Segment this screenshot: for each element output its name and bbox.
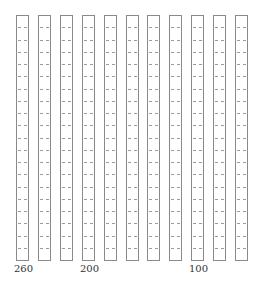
segment-divider: [149, 223, 158, 224]
segment-divider: [128, 113, 137, 114]
segment-divider: [215, 113, 224, 114]
segment-divider: [149, 64, 158, 65]
segment-divider: [18, 101, 27, 102]
segment-divider: [237, 138, 246, 139]
segment-divider: [215, 101, 224, 102]
segment-divider: [215, 150, 224, 151]
segment-divider: [215, 64, 224, 65]
segment-divider: [106, 101, 115, 102]
segment-divider: [18, 113, 27, 114]
segment-divider: [215, 211, 224, 212]
segment-divider: [171, 211, 180, 212]
segment-divider: [215, 187, 224, 188]
segment-divider: [171, 138, 180, 139]
segment-divider: [149, 76, 158, 77]
segment-divider: [106, 150, 115, 151]
segment-divider: [193, 27, 202, 28]
segment-divider: [128, 40, 137, 41]
segment-divider: [237, 113, 246, 114]
segment-divider: [193, 52, 202, 53]
segment-divider: [237, 162, 246, 163]
segment-divider: [84, 52, 93, 53]
segment-divider: [40, 76, 49, 77]
segment-divider: [62, 138, 71, 139]
segment-divider: [106, 211, 115, 212]
segment-divider: [84, 101, 93, 102]
segment-divider: [62, 76, 71, 77]
segment-divider: [62, 199, 71, 200]
segment-divider: [106, 40, 115, 41]
segment-divider: [40, 162, 49, 163]
segment-divider: [237, 125, 246, 126]
segment-divider: [40, 89, 49, 90]
segment-divider: [62, 150, 71, 151]
segment-divider: [40, 52, 49, 53]
segment-divider: [84, 162, 93, 163]
segment-divider: [84, 199, 93, 200]
segment-divider: [84, 236, 93, 237]
segment-divider: [149, 199, 158, 200]
segment-divider: [40, 248, 49, 249]
segment-divider: [84, 40, 93, 41]
segment-divider: [237, 223, 246, 224]
segment-divider: [215, 27, 224, 28]
segment-divider: [237, 27, 246, 28]
segment-divider: [62, 52, 71, 53]
segment-divider: [84, 187, 93, 188]
segment-divider: [62, 162, 71, 163]
segment-divider: [128, 27, 137, 28]
segment-divider: [18, 236, 27, 237]
segment-divider: [193, 174, 202, 175]
segment-divider: [171, 236, 180, 237]
segment-divider: [40, 138, 49, 139]
segment-divider: [18, 138, 27, 139]
segment-divider: [171, 162, 180, 163]
segment-divider: [215, 174, 224, 175]
segment-divider: [193, 40, 202, 41]
column-value-label: 100: [189, 263, 208, 274]
segment-divider: [106, 199, 115, 200]
segment-divider: [62, 27, 71, 28]
segment-divider: [237, 236, 246, 237]
segment-divider: [171, 52, 180, 53]
segment-divider: [215, 199, 224, 200]
segment-divider: [193, 211, 202, 212]
segment-divider: [237, 248, 246, 249]
segment-divider: [149, 89, 158, 90]
segment-divider: [128, 174, 137, 175]
segment-divider: [149, 138, 158, 139]
segment-divider: [237, 89, 246, 90]
segment-divider: [40, 64, 49, 65]
column-11: [235, 15, 248, 261]
segment-divider: [84, 138, 93, 139]
segment-divider: [128, 89, 137, 90]
segment-divider: [62, 223, 71, 224]
segment-divider: [193, 236, 202, 237]
segment-divider: [193, 199, 202, 200]
segment-divider: [237, 101, 246, 102]
segment-divider: [171, 64, 180, 65]
segment-divider: [149, 162, 158, 163]
segment-divider: [171, 125, 180, 126]
segment-divider: [215, 125, 224, 126]
segment-divider: [18, 89, 27, 90]
segment-divider: [237, 174, 246, 175]
segment-divider: [62, 211, 71, 212]
segment-divider: [40, 27, 49, 28]
segment-divider: [84, 27, 93, 28]
column-4: [82, 15, 95, 261]
segment-divider: [193, 113, 202, 114]
segment-divider: [18, 174, 27, 175]
segment-divider: [171, 187, 180, 188]
segment-divider: [149, 211, 158, 212]
segment-divider: [193, 187, 202, 188]
segment-divider: [193, 64, 202, 65]
segment-divider: [18, 52, 27, 53]
column-6: [126, 15, 139, 261]
segment-divider: [84, 125, 93, 126]
segment-divider: [62, 248, 71, 249]
column-value-label: 260: [14, 263, 33, 274]
segment-divider: [18, 211, 27, 212]
segment-divider: [237, 187, 246, 188]
segment-divider: [40, 187, 49, 188]
